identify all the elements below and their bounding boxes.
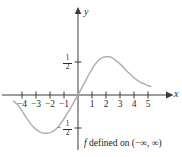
fraction-numerator: 1 xyxy=(63,121,72,128)
y-axis xyxy=(75,7,82,150)
y-tick-label-one-half: 1 2 xyxy=(63,55,72,71)
x-tick-label-5: 5 xyxy=(141,100,155,110)
x-tick-label--1: −1 xyxy=(57,100,71,110)
graph-canvas xyxy=(0,0,182,157)
fraction-denominator: 2 xyxy=(63,130,72,137)
x-axis-label: x xyxy=(174,89,178,99)
x-tick-label--2: −2 xyxy=(43,100,57,110)
x-tick-label-3: 3 xyxy=(113,100,127,110)
fraction-denominator: 2 xyxy=(63,64,72,71)
y-tick-label-negative-one-half: 1 2 xyxy=(63,121,72,137)
x-tick-label-1: 1 xyxy=(85,100,99,110)
x-tick-label-4: 4 xyxy=(127,100,141,110)
x-tick-label--3: −3 xyxy=(29,100,43,110)
caption-text: defined on (−∞, ∞) xyxy=(87,138,162,148)
y-tick-minus-sign: − xyxy=(57,124,62,132)
function-graph-figure: −4 −3 −2 −1 1 2 3 4 5 1 2 − 1 2 x y f de… xyxy=(0,0,182,157)
figure-caption: f defined on (−∞, ∞) xyxy=(84,139,162,149)
x-tick-label-2: 2 xyxy=(99,100,113,110)
fraction-numerator: 1 xyxy=(63,55,72,62)
y-axis-label: y xyxy=(84,7,88,17)
x-tick-label--4: −4 xyxy=(15,100,29,110)
